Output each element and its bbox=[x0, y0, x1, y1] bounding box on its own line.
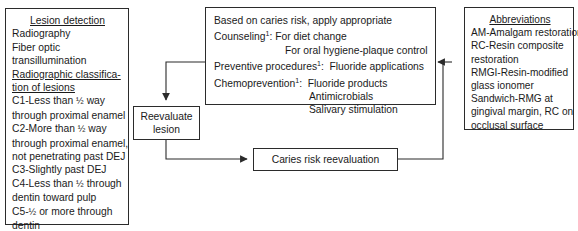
lesion-class-text: C2-More than bbox=[12, 123, 78, 134]
abbreviation-item: gingival margin, RC on bbox=[471, 105, 569, 118]
reevaluate-lesion-label: Reevaluate lesion bbox=[134, 107, 199, 139]
plan-row-label: Preventive procedures bbox=[214, 61, 317, 72]
fraction-half: ½ bbox=[76, 179, 84, 189]
plan-row: Counseling1: For diet change For oral hy… bbox=[214, 30, 429, 57]
lesion-class-text: through proximal enamel, bbox=[12, 137, 123, 150]
lesion-class-text: way bbox=[86, 123, 107, 134]
plan-row-value: For diet change bbox=[275, 31, 347, 42]
radiographic-classification-heading: tion of lesions bbox=[12, 81, 123, 94]
lesion-detection-item: Fiber optic bbox=[12, 41, 123, 54]
fraction-half: ½ bbox=[78, 124, 86, 134]
lesion-class-item: C2-More than ½ way through proximal enam… bbox=[12, 122, 123, 163]
reevaluate-lesion-box: Reevaluate lesion bbox=[133, 106, 200, 140]
plan-row-label: Counseling bbox=[214, 31, 266, 42]
lesion-class-text: C1-Less than bbox=[12, 95, 76, 106]
plan-row-label: Chemoprevention bbox=[214, 78, 295, 89]
lesion-detection-box: Lesion detection Radiography Fiber optic… bbox=[5, 8, 129, 225]
abbreviation-item: occlusal surface bbox=[471, 119, 569, 132]
caries-risk-reevaluation-label: Caries risk reevaluation bbox=[254, 149, 397, 170]
abbreviations-box: Abbreviations AM-Amalgam restoration RC-… bbox=[464, 7, 574, 130]
lesion-class-text: dentin bbox=[12, 219, 123, 231]
plan-row-value: Salivary stimulation bbox=[214, 103, 429, 116]
lesion-class-item: C3-Slightly past DEJ bbox=[12, 163, 123, 176]
lesion-detection-item: Radiography bbox=[12, 27, 123, 40]
abbreviation-item: restoration bbox=[471, 53, 569, 66]
lesion-detection-item: transillumination bbox=[12, 54, 123, 67]
plan-intro-text: Based on caries risk, apply appropriate bbox=[214, 14, 429, 27]
wire-plan-to-reevaluate bbox=[166, 62, 205, 100]
abbreviation-item: RMGI-Resin-modified bbox=[471, 66, 569, 79]
plan-row-value: Fluoride applications bbox=[330, 61, 424, 72]
wire-reevaluate-to-caries-risk bbox=[166, 140, 247, 159]
plan-row-value: Antimicrobials bbox=[214, 90, 429, 103]
lesion-class-text: dentin toward pulp bbox=[12, 191, 123, 204]
lesion-class-text: through proximal enamel bbox=[12, 109, 123, 122]
abbreviation-item: RC-Resin composite bbox=[471, 39, 569, 52]
abbreviations-heading: Abbreviations bbox=[471, 13, 569, 26]
lesion-class-text: C4-Less than bbox=[12, 178, 76, 189]
radiographic-classification-heading: Radiographic classifica- bbox=[12, 68, 123, 81]
caries-risk-reevaluation-box: Caries risk reevaluation bbox=[253, 148, 398, 171]
lesion-class-text: through bbox=[84, 178, 122, 189]
lesion-class-item: C1-Less than ½ way through proximal enam… bbox=[12, 94, 123, 122]
diagram-canvas: Lesion detection Radiography Fiber optic… bbox=[0, 0, 578, 231]
lesion-class-item: C4-Less than ½ through dentin toward pul… bbox=[12, 177, 123, 205]
plan-row-value: Fluoride products bbox=[308, 78, 388, 89]
plan-row: Preventive procedures1: Fluoride applica… bbox=[214, 60, 429, 73]
fraction-half: ½ bbox=[76, 96, 84, 106]
reevaluate-line-2: lesion bbox=[140, 123, 192, 136]
abbreviation-item: AM-Amalgam restoration bbox=[471, 26, 569, 39]
caries-risk-plan-box: Based on caries risk, apply appropriate … bbox=[205, 7, 436, 105]
lesion-class-text: way bbox=[84, 95, 105, 106]
plan-row-value: For oral hygiene-plaque control bbox=[214, 44, 429, 57]
plan-row-separator: : bbox=[321, 61, 324, 72]
lesion-class-text: not penetrating past DEJ bbox=[12, 150, 123, 163]
lesion-class-text: or more through bbox=[36, 206, 112, 217]
plan-row: Chemoprevention1: Fluoride products Anti… bbox=[214, 77, 429, 117]
plan-row-separator: : bbox=[299, 78, 302, 89]
abbreviation-item: glass ionomer bbox=[471, 79, 569, 92]
lesion-class-item: C5-½ or more through dentin bbox=[12, 205, 123, 231]
abbreviation-item: Sandwich-RMG at bbox=[471, 92, 569, 105]
lesion-class-text: C5- bbox=[12, 206, 29, 217]
lesion-class-text: C3-Slightly past DEJ bbox=[12, 163, 123, 176]
lesion-detection-heading: Lesion detection bbox=[12, 14, 123, 27]
plan-row-separator: : bbox=[269, 31, 272, 42]
reevaluate-line-1: Reevaluate bbox=[140, 110, 192, 123]
